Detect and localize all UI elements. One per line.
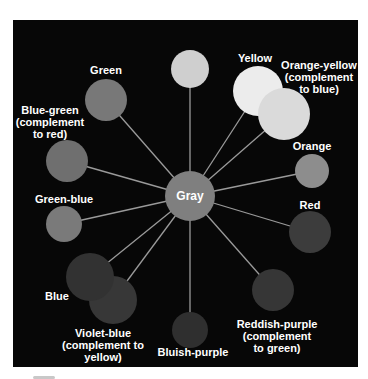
center-node-gray: Gray [165, 171, 215, 221]
node-reddish-purple [252, 269, 294, 311]
center-node-label: Gray [176, 189, 203, 203]
label-yellow: Yellow [238, 52, 272, 64]
node-yellow-green [171, 50, 209, 88]
label-red: Red [300, 199, 321, 211]
label-violet-blue: Violet-blue (complement to yellow) [62, 327, 144, 363]
node-blue [66, 253, 114, 301]
label-yellow-green: Yellow-green [156, 8, 224, 20]
node-orange-yellow [258, 88, 310, 140]
node-red [289, 211, 331, 253]
label-green-blue: Green-blue [35, 193, 93, 205]
label-blue: Blue [45, 290, 69, 302]
label-bluish-purple: Bluish-purple [158, 346, 229, 358]
node-bluish-purple [172, 312, 208, 348]
node-blue-green [46, 140, 88, 182]
node-green [85, 79, 127, 121]
label-green: Green [90, 64, 122, 76]
label-blue-green: Blue-green (complement to red) [16, 104, 84, 140]
label-reddish-purple: Reddish-purple (complement to green) [237, 318, 318, 354]
label-orange-yellow: Orange-yellow (complement to blue) [281, 59, 357, 95]
node-orange [295, 154, 329, 188]
node-green-blue [46, 206, 82, 242]
label-orange: Orange [293, 140, 332, 152]
